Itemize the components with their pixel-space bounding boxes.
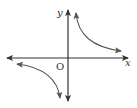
curve-branch-quadrant-1	[76, 13, 121, 51]
y-axis-label: y	[56, 7, 63, 18]
x-axis-label: x	[125, 57, 131, 68]
hyperbola-diagram: y x O	[0, 0, 137, 108]
curve-branch-quadrant-3	[17, 64, 60, 98]
origin-label: O	[56, 61, 64, 72]
